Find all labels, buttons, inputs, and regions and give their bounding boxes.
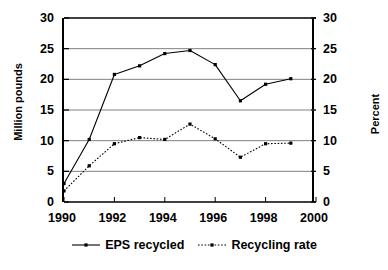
data-point-marker	[138, 64, 141, 67]
y-axis-right-tick-label: 5	[323, 165, 363, 178]
plot-svg	[64, 18, 316, 202]
data-point-marker	[289, 142, 292, 145]
y-axis-left-tick-label: 30	[14, 12, 54, 25]
y-axis-right-title: Percent	[369, 49, 381, 179]
y-axis-left-tick-label: 10	[14, 135, 54, 148]
data-point-marker	[62, 189, 65, 192]
data-point-marker	[289, 77, 292, 80]
data-point-marker	[264, 142, 267, 145]
y-axis-left-title: Million pounds	[12, 37, 24, 167]
y-axis-left-tick-label: 25	[14, 43, 54, 56]
legend-label: EPS recycled	[105, 238, 184, 252]
data-point-marker	[188, 123, 191, 126]
legend-swatch-line-icon	[197, 240, 227, 250]
plot-area	[62, 18, 314, 202]
data-point-marker	[62, 182, 65, 185]
data-point-marker	[138, 136, 141, 139]
y-axis-right-tick-label: 15	[323, 104, 363, 117]
x-axis-tick-label: 2000	[284, 212, 344, 225]
y-axis-right-tick-label: 30	[323, 12, 363, 25]
legend-item-1[interactable]: EPS recycled	[71, 238, 184, 252]
y-axis-right-tick-label: 10	[323, 135, 363, 148]
data-point-marker	[239, 156, 242, 159]
chart-legend: EPS recycledRecycling rate	[0, 238, 388, 252]
series-line-2	[64, 124, 291, 191]
data-point-marker	[113, 142, 116, 145]
data-point-marker	[163, 52, 166, 55]
line-chart: Million pounds Percent EPS recycledRecyc…	[0, 0, 388, 270]
legend-swatch-line-icon	[71, 240, 101, 250]
data-point-marker	[214, 137, 217, 140]
y-axis-left-tick-label: 5	[14, 165, 54, 178]
data-point-marker	[88, 138, 91, 141]
data-point-marker	[214, 63, 217, 66]
series-line-1	[64, 51, 291, 184]
data-point-marker	[163, 138, 166, 141]
y-axis-right-tick-label: 20	[323, 73, 363, 86]
y-axis-left-tick-label: 0	[14, 196, 54, 209]
y-axis-right-tick-label: 25	[323, 43, 363, 56]
data-point-marker	[264, 83, 267, 86]
y-axis-left-tick-label: 20	[14, 73, 54, 86]
data-point-marker	[239, 99, 242, 102]
data-point-marker	[88, 164, 91, 167]
legend-item-2[interactable]: Recycling rate	[197, 238, 316, 252]
y-axis-left-tick-label: 15	[14, 104, 54, 117]
y-axis-right-tick-label: 0	[323, 196, 363, 209]
data-point-marker	[113, 73, 116, 76]
data-point-marker	[188, 49, 191, 52]
legend-label: Recycling rate	[231, 238, 316, 252]
